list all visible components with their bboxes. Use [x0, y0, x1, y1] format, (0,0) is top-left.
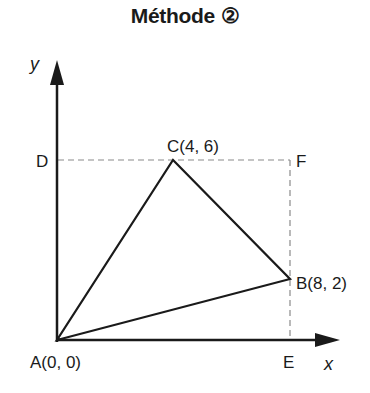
y-axis-arrow-icon — [50, 60, 64, 85]
point-label-d: D — [36, 152, 48, 171]
point-label-e: E — [283, 353, 294, 372]
x-axis-arrow-icon — [315, 333, 340, 347]
point-label-a: A(0, 0) — [30, 353, 81, 372]
triangle-abc — [57, 160, 290, 340]
y-axis-label: y — [28, 54, 40, 74]
point-label-f: F — [296, 152, 306, 171]
point-label-c: C(4, 6) — [167, 137, 219, 156]
x-axis-label: x — [323, 354, 334, 374]
coordinate-diagram: y x C(4, 6) D F B(8, 2) A(0, 0) E — [0, 0, 370, 393]
point-label-b: B(8, 2) — [296, 274, 347, 293]
